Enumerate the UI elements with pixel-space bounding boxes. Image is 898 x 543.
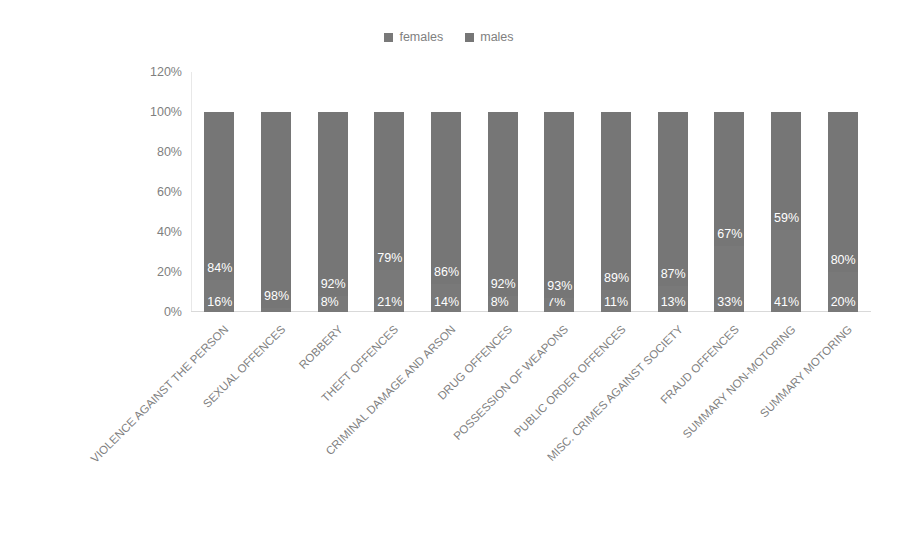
y-axis-tick-40: 40% bbox=[157, 226, 182, 239]
bar-stack[interactable]: 11%89% bbox=[601, 112, 631, 312]
bar-value-label-females: 20% bbox=[831, 296, 856, 309]
y-axis-tick-20: 20% bbox=[157, 266, 182, 279]
bar-value-label-males: 86% bbox=[434, 266, 459, 279]
bar-segment-males[interactable]: 87% bbox=[658, 112, 688, 286]
x-axis-label-0: VIOLENCE AGAINST THE PERSON bbox=[90, 324, 232, 466]
bar-stack[interactable]: 8%92% bbox=[488, 112, 518, 312]
bar-segment-females[interactable]: 20% bbox=[828, 272, 858, 312]
bar-value-label-males: 59% bbox=[774, 212, 799, 225]
bar-value-label-males: 92% bbox=[491, 278, 516, 291]
bar-value-label-females: 41% bbox=[774, 296, 799, 309]
bar-value-label-males: 93% bbox=[547, 280, 572, 293]
bar-segment-females[interactable]: 8% bbox=[318, 296, 348, 312]
bar-value-label-males: 92% bbox=[321, 278, 346, 291]
bar-value-label-females: 14% bbox=[434, 296, 459, 309]
bar-segment-females[interactable]: 7% bbox=[544, 298, 574, 312]
bar-segment-males[interactable]: 93% bbox=[544, 112, 574, 298]
plot-area: 0%20%40%60%80%100%120% 16%84%2%98%8%92%2… bbox=[191, 72, 871, 312]
bar-value-label-males: 67% bbox=[717, 228, 742, 241]
x-axis-label-3: THEFT OFFENCES bbox=[320, 324, 401, 405]
bar-segment-females[interactable]: 33% bbox=[714, 246, 744, 312]
bar-segment-males[interactable]: 86% bbox=[431, 112, 461, 284]
bar-value-label-females: 13% bbox=[661, 296, 686, 309]
y-axis-tick-80: 80% bbox=[157, 146, 182, 159]
bar-value-label-males: 87% bbox=[661, 268, 686, 281]
y-axis-tick-0: 0% bbox=[164, 306, 182, 319]
bar-stack[interactable]: 13%87% bbox=[658, 112, 688, 312]
x-axis-label-10: SUMMARY NON-MOTORING bbox=[681, 324, 798, 441]
legend-label-females: females bbox=[399, 31, 443, 44]
bar-value-label-females: 33% bbox=[717, 296, 742, 309]
bar-segment-females[interactable]: 2% bbox=[261, 308, 291, 312]
legend-label-males: males bbox=[480, 31, 513, 44]
bar-stack[interactable]: 16%84% bbox=[204, 112, 234, 312]
bar-segment-females[interactable]: 13% bbox=[658, 286, 688, 312]
legend-entry-females[interactable]: females bbox=[384, 31, 443, 44]
bar-slot: 41%59% bbox=[771, 72, 801, 312]
bar-segment-males[interactable]: 84% bbox=[204, 112, 234, 280]
bar-slot: 14%86% bbox=[431, 72, 461, 312]
x-axis-label-4: CRIMINAL DAMAGE AND ARSON bbox=[324, 324, 458, 458]
bar-stack[interactable]: 7%93% bbox=[544, 112, 574, 312]
y-axis-tick-120: 120% bbox=[150, 66, 182, 79]
bar-stack[interactable]: 14%86% bbox=[431, 112, 461, 312]
bar-value-label-males: 84% bbox=[207, 262, 232, 275]
x-axis-label-2: ROBBERY bbox=[297, 324, 345, 372]
bar-segment-females[interactable]: 14% bbox=[431, 284, 461, 312]
bar-slot: 7%93% bbox=[544, 72, 574, 312]
bar-value-label-females: 21% bbox=[377, 296, 402, 309]
x-axis-label-9: FRAUD OFFENCES bbox=[659, 324, 742, 407]
bar-segment-males[interactable]: 80% bbox=[828, 112, 858, 272]
bar-segment-females[interactable]: 11% bbox=[601, 290, 631, 312]
legend-swatch-females-icon bbox=[384, 33, 393, 42]
bar-slot: 8%92% bbox=[318, 72, 348, 312]
bar-segment-males[interactable]: 92% bbox=[318, 112, 348, 296]
bar-segment-females[interactable]: 21% bbox=[374, 270, 404, 312]
bar-slot: 16%84% bbox=[204, 72, 234, 312]
x-axis-label-11: SUMMARY MOTORING bbox=[758, 324, 854, 420]
bar-slot: 33%67% bbox=[714, 72, 744, 312]
bar-stack[interactable]: 21%79% bbox=[374, 112, 404, 312]
bar-segment-females[interactable]: 8% bbox=[488, 296, 518, 312]
bar-segment-males[interactable]: 67% bbox=[714, 112, 744, 246]
y-axis-tick-100: 100% bbox=[150, 106, 182, 119]
bar-slot: 20%80% bbox=[828, 72, 858, 312]
legend-entry-males[interactable]: males bbox=[465, 31, 513, 44]
bar-value-label-females: 11% bbox=[604, 296, 628, 309]
bar-segment-males[interactable]: 59% bbox=[771, 112, 801, 230]
bar-stack[interactable]: 20%80% bbox=[828, 112, 858, 312]
bar-slot: 11%89% bbox=[601, 72, 631, 312]
bar-value-label-females: 16% bbox=[207, 296, 232, 309]
bar-value-label-males: 79% bbox=[377, 252, 402, 265]
x-axis-label-5: DRUG OFFENCES bbox=[436, 324, 515, 403]
bar-segment-males[interactable]: 79% bbox=[374, 112, 404, 270]
bar-value-label-females: 8% bbox=[321, 296, 339, 309]
bar-value-label-males: 89% bbox=[604, 272, 629, 285]
x-axis-label-6: POSSESSION OF WEAPONS bbox=[452, 324, 571, 443]
bar-stack[interactable]: 8%92% bbox=[318, 112, 348, 312]
bar-segment-males[interactable]: 89% bbox=[601, 112, 631, 290]
bar-stack[interactable]: 33%67% bbox=[714, 112, 744, 312]
bar-slot: 13%87% bbox=[658, 72, 688, 312]
y-axis-tick-60: 60% bbox=[157, 186, 182, 199]
bar-segment-males[interactable]: 98% bbox=[261, 112, 291, 308]
bar-slot: 21%79% bbox=[374, 72, 404, 312]
bar-segment-females[interactable]: 41% bbox=[771, 230, 801, 312]
bar-group: 16%84%2%98%8%92%21%79%14%86%8%92%7%93%11… bbox=[191, 72, 871, 312]
legend-swatch-males-icon bbox=[465, 33, 474, 42]
chart-legend: females males bbox=[0, 31, 898, 44]
chart-root: females males 0%20%40%60%80%100%120% 16%… bbox=[0, 0, 898, 543]
bar-slot: 2%98% bbox=[261, 72, 291, 312]
bar-stack[interactable]: 41%59% bbox=[771, 112, 801, 312]
x-axis-label-1: SEXUAL OFFENCES bbox=[201, 324, 287, 410]
bar-value-label-males: 80% bbox=[831, 254, 856, 267]
bar-segment-males[interactable]: 92% bbox=[488, 112, 518, 296]
x-axis-label-7: PUBLIC ORDER OFFENCES bbox=[512, 324, 628, 440]
bar-value-label-males: 98% bbox=[264, 290, 289, 303]
x-axis-label-8: MISC. CRIMES AGAINST SOCIETY bbox=[545, 324, 685, 464]
bar-value-label-females: 8% bbox=[491, 296, 509, 309]
bar-slot: 8%92% bbox=[488, 72, 518, 312]
bar-stack[interactable]: 2%98% bbox=[261, 112, 291, 312]
bar-segment-females[interactable]: 16% bbox=[204, 280, 234, 312]
